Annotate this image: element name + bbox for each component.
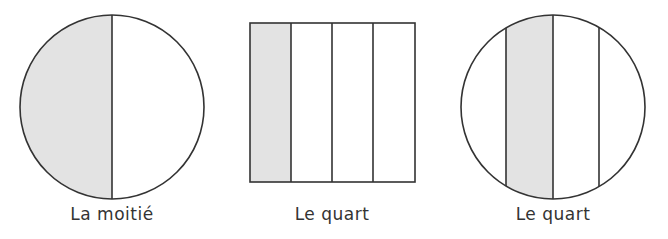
label-quarter-square: Le quart [262,204,402,224]
shaded-strip [506,15,553,199]
shaded-quarter [250,23,291,182]
shaded-half [20,15,112,199]
half-circle-figure [20,15,204,199]
quarter-square-figure [250,23,415,182]
label-strip-circle: Le quart [483,204,623,224]
strip-circle-figure [461,10,645,205]
label-half-circle: La moitié [42,204,182,224]
